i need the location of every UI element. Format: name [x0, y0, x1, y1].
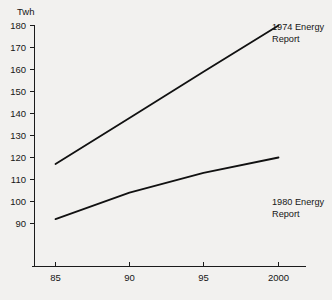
y-tick-label: 170 [10, 42, 26, 53]
y-tick-label: 180 [10, 20, 26, 31]
annotation-1980: 1980 Energy Report [272, 197, 325, 219]
y-tick-label: 150 [10, 86, 26, 97]
annotation-1980-line2: Report [272, 209, 300, 219]
annotation-1974-line2: Report [272, 34, 300, 44]
y-axis-ticks: 180 170 160 150 140 130 120 110 100 90 [10, 20, 34, 229]
y-tick-label: 130 [10, 130, 26, 141]
annotation-1974: 1974 Energy Report [272, 22, 325, 44]
annotation-1980-line1: 1980 Energy [272, 197, 325, 207]
y-tick-label: 100 [10, 196, 26, 207]
x-tick-label: 2000 [268, 272, 289, 283]
x-tick-label: 90 [124, 272, 135, 283]
y-tick-label: 140 [10, 108, 26, 119]
x-axis-ticks: 85 90 95 2000 [50, 262, 289, 283]
y-tick-label: 160 [10, 64, 26, 75]
y-tick-label: 90 [15, 218, 26, 229]
x-tick-label: 85 [50, 272, 61, 283]
annotation-1974-line1: 1974 Energy [272, 22, 325, 32]
x-tick-label: 95 [198, 272, 209, 283]
series-line-1980 [56, 158, 279, 220]
chart-container: Twh 180 170 160 150 140 130 120 110 100 [0, 0, 332, 300]
y-axis-title: Twh [17, 6, 34, 17]
line-chart: Twh 180 170 160 150 140 130 120 110 100 [0, 0, 332, 300]
series-line-1974 [56, 26, 279, 165]
y-tick-label: 120 [10, 152, 26, 163]
y-tick-label: 110 [11, 174, 26, 185]
